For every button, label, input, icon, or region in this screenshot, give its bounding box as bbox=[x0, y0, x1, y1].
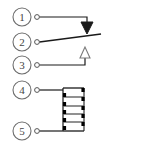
schematic-canvas: 1 2 3 4 5 bbox=[0, 0, 146, 150]
pin-1-label: 1 bbox=[19, 11, 25, 23]
pin-2-terminal[interactable] bbox=[35, 40, 40, 45]
pin-3-label: 3 bbox=[19, 59, 25, 71]
pin-2-label: 2 bbox=[19, 36, 25, 48]
pin-5-terminal[interactable] bbox=[35, 129, 40, 134]
pin-3-terminal[interactable] bbox=[35, 63, 40, 68]
relay-schematic-svg: 1 2 3 4 5 bbox=[0, 0, 146, 150]
pin-4-label: 4 bbox=[19, 84, 25, 96]
pin-5-label: 5 bbox=[19, 125, 25, 137]
pin-4-terminal[interactable] bbox=[35, 88, 40, 93]
pin-1-terminal[interactable] bbox=[35, 15, 40, 20]
